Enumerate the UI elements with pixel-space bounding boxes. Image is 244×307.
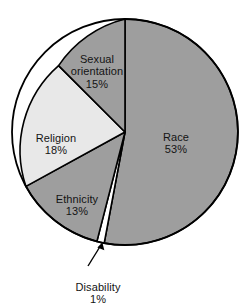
pie-chart: Race 53% Sexual orientation 15% Religion…: [0, 0, 244, 307]
pie-chart-graphic: [0, 0, 244, 307]
